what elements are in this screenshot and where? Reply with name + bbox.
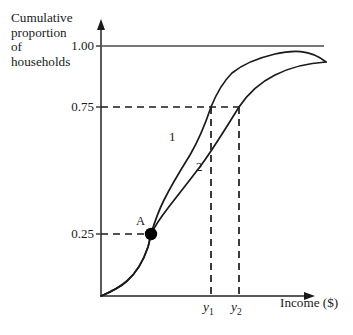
point-a-label: A [136,214,145,229]
x-tick-label-y2-subscript: 2 [237,306,242,317]
y-tick-label-1-00: 1.00 [50,38,94,54]
y-tick-label-0-75: 0.75 [50,99,94,115]
y-axis-arrowhead [97,19,105,30]
curve-label-2: 2 [196,159,203,175]
y-tick-label-0-25: 0.25 [50,226,94,242]
y-axis-title-line-1: Cumulative [11,11,73,26]
x-tick-label-y1: y1 [203,299,214,317]
x-tick-label-y2: y2 [231,299,242,317]
point-a-marker [145,228,157,240]
x-tick-label-y1-subscript: 1 [209,306,214,317]
ogive-curve-2 [101,62,326,296]
y-axis-title-line-4: households [11,55,73,70]
curve-label-1: 1 [169,129,176,145]
ogive-curve-1 [101,51,326,296]
x-axis-title: Income ($) [280,295,338,311]
lorenz-ogive-figure: Cumulative proportion of households 1.00… [0,0,353,335]
